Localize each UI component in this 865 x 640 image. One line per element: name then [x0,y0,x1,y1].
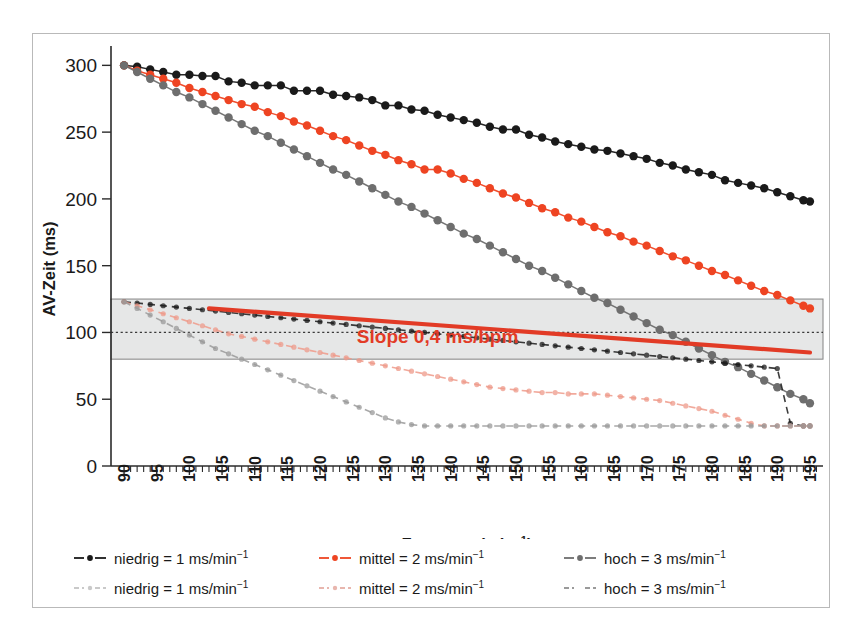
data-point [355,141,363,149]
data-point [553,390,558,395]
x-tick-label: 175 [671,455,688,482]
x-tick-label: 115 [279,456,296,482]
data-point [185,71,193,79]
data-point [669,161,677,169]
x-tick-label: 145 [475,455,492,482]
x-tick-label: 195 [802,455,819,482]
data-point [590,145,598,153]
legend-item[interactable]: mittel = 2 ms/min−1 [318,579,563,597]
data-point [629,152,637,160]
legend-exponent: −1 [714,579,725,590]
data-point [409,422,414,427]
data-point [801,423,806,428]
data-point [146,75,154,83]
data-point [420,209,428,217]
data-point [461,423,466,428]
data-point [590,223,598,231]
legend-exponent: −1 [237,549,248,560]
data-point [316,87,324,95]
data-point [807,423,812,428]
legend-item[interactable]: mittel = 2 ms/min−1 [318,549,563,567]
data-point [265,339,270,344]
data-point [721,176,729,184]
data-point [564,213,572,221]
data-point [806,197,814,205]
x-tick-label: 125 [345,455,362,482]
data-point [291,378,296,383]
data-point [317,319,322,324]
x-tick-label: 180 [704,455,721,482]
data-point [460,116,468,124]
data-point [159,81,167,89]
data-point [291,317,296,322]
legend-swatch-icon [73,551,107,565]
data-point [277,112,285,120]
y-tick-label: 150 [65,256,97,277]
data-point [239,357,244,362]
data-point [224,96,232,104]
data-point [762,365,767,370]
legend-item[interactable]: hoch = 3 ms/min−1 [563,579,808,597]
figure-frame: 0501001502002503009095100105110115120125… [32,33,830,608]
x-tick-label: 100 [181,455,198,482]
y-axis-title: AV-Zeit (ms) [40,221,58,316]
legend-item[interactable]: niedrig = 1 ms/min−1 [73,579,318,597]
data-point [603,147,611,155]
data-point [446,223,454,231]
data-point [200,307,205,312]
data-point [631,395,636,400]
data-point [213,327,218,332]
data-point [682,256,690,264]
legend-item-label: niedrig = 1 ms/min−1 [114,579,248,597]
x-tick-label: 185 [737,455,754,482]
data-point [682,165,690,173]
x-tick-label: 155 [541,455,558,482]
data-point [211,92,219,100]
data-point [342,92,350,100]
legend-item[interactable]: niedrig = 1 ms/min−1 [73,549,318,567]
data-point [148,302,153,307]
data-point [605,393,610,398]
data-point [499,248,507,256]
y-tick-label: 200 [65,189,97,210]
data-point [605,349,610,354]
data-point [278,373,283,378]
data-point [200,339,205,344]
data-point [342,136,350,144]
data-point [564,280,572,288]
legend-exponent: −1 [473,549,484,560]
data-point [806,399,814,407]
x-tick-label: 130 [377,455,394,482]
data-point [579,391,584,396]
data-point [590,294,598,302]
legend-item[interactable]: hoch = 3 ms/min−1 [563,549,808,567]
data-point [722,413,727,418]
data-point [172,71,180,79]
data-point [290,117,298,125]
data-point [735,423,740,428]
data-point [304,383,309,388]
data-point [368,147,376,155]
data-point [553,343,558,348]
data-point [499,189,507,197]
data-point [603,299,611,307]
data-point [644,397,649,402]
legend-exponent: −1 [473,579,484,590]
data-point [357,405,362,410]
data-point [422,423,427,428]
legend-swatch-icon [73,581,107,595]
data-point [355,177,363,185]
data-point [317,389,322,394]
data-point [198,72,206,80]
data-point [226,351,231,356]
data-point [747,282,755,290]
data-point [355,93,363,101]
data-point [551,208,559,216]
data-point [407,105,415,113]
data-point [422,371,427,376]
data-point [806,304,814,312]
legend-item-label: hoch = 3 ms/min−1 [604,579,726,597]
data-point [762,423,767,428]
data-point [618,423,623,428]
x-tick-label: 135 [410,455,427,482]
